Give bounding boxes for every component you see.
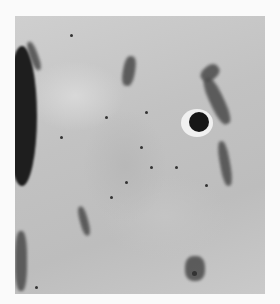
small-crater <box>110 196 113 199</box>
ridge-shadow <box>216 140 234 186</box>
small-crater <box>150 166 153 169</box>
small-crater <box>205 184 208 187</box>
small-crater <box>35 286 38 289</box>
small-crater <box>140 146 143 149</box>
small-crater <box>60 136 63 139</box>
small-crater <box>192 271 197 276</box>
lunar-surface-photo <box>15 16 265 294</box>
ridge-shadow <box>185 256 205 281</box>
small-crater <box>105 116 108 119</box>
ridge-shadow <box>15 231 27 291</box>
ridge-shadow <box>120 55 137 87</box>
ridge-shadow <box>76 205 91 236</box>
small-crater <box>70 34 73 37</box>
small-crater <box>125 181 128 184</box>
bright-crater-pit <box>189 112 209 132</box>
small-crater <box>175 166 178 169</box>
small-crater <box>145 111 148 114</box>
